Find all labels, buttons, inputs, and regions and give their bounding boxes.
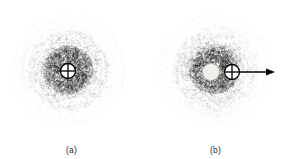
point-cloud-a <box>0 0 143 134</box>
scatter-plot-a <box>0 0 143 134</box>
point-cloud-b <box>144 0 287 134</box>
figure-container: (a) (b) <box>0 0 287 159</box>
panel-a: (a) <box>0 0 143 159</box>
scatter-plot-b <box>144 0 287 134</box>
panel-b-caption: (b) <box>144 145 287 155</box>
panel-b: (b) <box>144 0 287 159</box>
panel-a-caption: (a) <box>0 145 143 155</box>
